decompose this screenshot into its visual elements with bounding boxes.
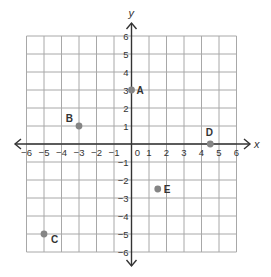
x-tick-label: 1 <box>146 147 151 158</box>
x-tick-label: 0 <box>135 147 140 158</box>
x-tick-label: 4 <box>199 147 204 158</box>
point-d <box>207 141 214 148</box>
y-tick-label: −5 <box>118 229 129 240</box>
point-a <box>128 87 135 94</box>
y-tick-label: 6 <box>123 31 128 42</box>
x-tick-label: 2 <box>164 147 169 158</box>
point-e <box>154 186 161 193</box>
axes: xy <box>15 7 260 266</box>
y-tick-label: −1 <box>118 157 129 168</box>
y-tick-label: 2 <box>123 103 128 114</box>
coordinate-plane: xy −6−5−4−3−2−10123456−6−5−4−3−2−1123456… <box>0 0 271 277</box>
x-axis-label: x <box>253 138 260 150</box>
y-tick-label: −2 <box>118 175 129 186</box>
x-tick-label: −2 <box>91 147 102 158</box>
y-axis-label: y <box>128 7 136 19</box>
x-tick-label: −6 <box>21 147 32 158</box>
point-c <box>41 231 48 238</box>
point-b <box>76 123 83 130</box>
point-label-c: C <box>51 234 58 245</box>
y-tick-label: −4 <box>118 211 129 222</box>
y-tick-label: 3 <box>123 85 128 96</box>
x-tick-label: −3 <box>74 147 85 158</box>
x-tick-label: −4 <box>56 147 67 158</box>
point-label-d: D <box>206 127 213 138</box>
point-label-a: A <box>137 85 144 96</box>
point-label-e: E <box>164 184 171 195</box>
x-tick-label: 5 <box>216 147 221 158</box>
x-tick-label: 6 <box>234 147 239 158</box>
y-tick-label: 5 <box>123 49 128 60</box>
point-label-b: B <box>66 113 73 124</box>
x-tick-label: 3 <box>181 147 186 158</box>
y-tick-label: −6 <box>118 247 129 258</box>
y-tick-label: 1 <box>123 121 128 132</box>
x-tick-label: −5 <box>39 147 50 158</box>
y-tick-label: 4 <box>123 67 128 78</box>
y-tick-label: −3 <box>118 193 129 204</box>
